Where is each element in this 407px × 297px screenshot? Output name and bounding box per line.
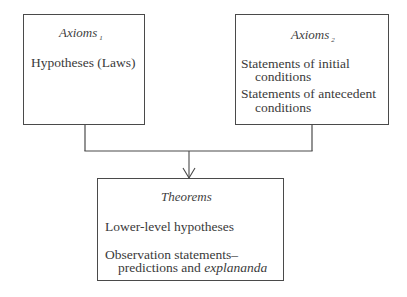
axioms2-item-antecedent-line2: conditions [255, 101, 311, 115]
axioms2-box: Axioms2 Statements of initial conditions… [235, 14, 389, 125]
axioms1-box: Axioms1 Hypotheses (Laws) [23, 14, 145, 125]
axioms1-subscript: 1 [99, 34, 103, 42]
axioms2-subscript: 2 [331, 36, 335, 44]
observation-line2-prefix: predictions and [118, 260, 204, 275]
axioms1-item-hypotheses: Hypotheses (Laws) [31, 56, 136, 70]
theorems-item-lower-level: Lower-level hypotheses [105, 220, 234, 234]
axioms2-title-text: Axioms [291, 27, 329, 42]
theorems-item-observation-line2: predictions and explananda [118, 261, 267, 275]
theorems-title: Theorems [161, 190, 212, 203]
theorems-box: Theorems Lower-level hypotheses Observat… [97, 178, 284, 281]
explananda-emphasis: explananda [204, 260, 267, 275]
axioms1-title: Axioms1 [59, 26, 103, 42]
axioms1-title-text: Axioms [59, 25, 97, 40]
axioms2-item-antecedent-line1: Statements of antecedent [241, 87, 376, 101]
deductive-system-diagram: Axioms1 Hypotheses (Laws) Axioms2 Statem… [0, 0, 407, 297]
axioms2-title: Axioms2 [291, 28, 335, 44]
axioms2-item-initial-line2: conditions [255, 70, 311, 84]
